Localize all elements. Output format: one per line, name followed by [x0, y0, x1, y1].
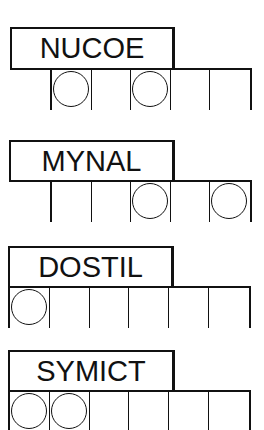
scrambled-word-label: SYMICT: [8, 350, 175, 392]
answer-cells: [50, 68, 252, 110]
answer-cell[interactable]: [171, 182, 211, 222]
answer-cell[interactable]: [210, 70, 250, 110]
answer-cell[interactable]: [90, 392, 130, 430]
answer-cells: [8, 390, 251, 430]
answer-cells: [8, 286, 251, 328]
answer-cell-circled[interactable]: [210, 182, 250, 222]
scrambled-word-label: NUCOE: [10, 27, 175, 70]
circle-marker-icon: [132, 71, 168, 107]
answer-cell[interactable]: [90, 288, 130, 328]
answer-cell[interactable]: [52, 182, 92, 222]
answer-cell-circled[interactable]: [131, 70, 171, 110]
circle-marker-icon: [51, 393, 87, 429]
answer-cell[interactable]: [209, 288, 249, 328]
answer-cells: [50, 180, 252, 222]
answer-cell-circled[interactable]: [131, 182, 171, 222]
answer-cell[interactable]: [92, 70, 132, 110]
circle-marker-icon: [11, 393, 47, 429]
answer-cell-circled[interactable]: [10, 288, 50, 328]
answer-cell[interactable]: [92, 182, 132, 222]
answer-cell-circled[interactable]: [10, 392, 50, 430]
answer-cell[interactable]: [50, 288, 90, 328]
circle-marker-icon: [53, 71, 89, 107]
answer-cell[interactable]: [129, 392, 169, 430]
circle-marker-icon: [211, 183, 247, 219]
answer-cell[interactable]: [171, 70, 211, 110]
answer-cell-circled[interactable]: [50, 392, 90, 430]
answer-cell[interactable]: [169, 392, 209, 430]
scrambled-word-label: MYNAL: [9, 140, 175, 182]
answer-cell[interactable]: [209, 392, 249, 430]
answer-cell-circled[interactable]: [52, 70, 92, 110]
answer-cell[interactable]: [129, 288, 169, 328]
circle-marker-icon: [11, 289, 47, 325]
answer-cell[interactable]: [169, 288, 209, 328]
circle-marker-icon: [132, 183, 168, 219]
scrambled-word-label: DOSTIL: [8, 246, 174, 288]
